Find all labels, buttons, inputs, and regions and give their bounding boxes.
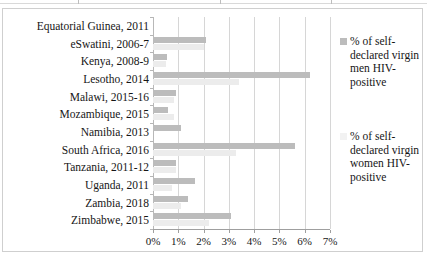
category-tick [150, 35, 153, 36]
bar-women [153, 220, 209, 226]
x-axis-tick [330, 230, 331, 233]
chart-frame: Equatorial Guinea, 2011eSwatini, 2006-7K… [2, 8, 423, 252]
category-tick [150, 105, 153, 106]
category-tick [150, 123, 153, 124]
bar-group [153, 19, 330, 37]
bar-men [153, 196, 188, 202]
bar-men [153, 107, 168, 113]
scan-artifact-tick [331, 0, 332, 4]
x-axis-tick [254, 230, 255, 233]
category-label: Mozambique, 2015 [9, 108, 149, 120]
bars-layer [153, 17, 330, 229]
category-label: Uganda, 2011 [9, 179, 149, 191]
bar-men [153, 72, 310, 78]
category-label: eSwatini, 2006-7 [9, 38, 149, 50]
category-label: Lesotho, 2014 [9, 73, 149, 85]
bar-women [153, 203, 181, 209]
bar-group [153, 178, 330, 196]
category-label: Malawi, 2015-16 [9, 91, 149, 103]
y-axis-category-labels: Equatorial Guinea, 2011eSwatini, 2006-7K… [9, 17, 149, 229]
category-label: Tanzania, 2011-12 [9, 161, 149, 173]
category-label: Kenya, 2008-9 [9, 55, 149, 67]
bar-women [153, 167, 176, 173]
bar-women [153, 185, 172, 191]
plot-area [153, 17, 330, 229]
x-axis-tick [153, 230, 154, 233]
bar-group [153, 143, 330, 161]
bar-women [153, 150, 236, 156]
x-axis-tick [178, 230, 179, 233]
x-axis-line [153, 229, 330, 230]
category-tick [150, 158, 153, 159]
legend-swatch-women-icon [340, 133, 347, 140]
bar-men [153, 160, 176, 166]
bar-group [153, 72, 330, 90]
legend-entry-men: % of self-declared virgin men HIV-positi… [340, 35, 424, 89]
bar-men [153, 178, 195, 184]
x-axis-tick [279, 230, 280, 233]
x-axis-tick [204, 230, 205, 233]
scan-artifact-rule [0, 3, 427, 4]
bar-men [153, 54, 167, 60]
bar-group [153, 107, 330, 125]
bar-group [153, 37, 330, 55]
category-tick [150, 141, 153, 142]
scan-artifact-tick [220, 0, 221, 4]
legend-swatch-men-icon [340, 38, 347, 45]
bar-group [153, 90, 330, 108]
bar-group [153, 160, 330, 178]
x-axis-tick-label: 7% [314, 235, 346, 248]
bar-men [153, 37, 206, 43]
gridline [330, 17, 331, 229]
bar-men [153, 125, 181, 131]
scan-artifact-tick [78, 0, 79, 4]
category-label: South Africa, 2016 [9, 144, 149, 156]
bar-women [153, 97, 174, 103]
category-label: Namibia, 2013 [9, 126, 149, 138]
bar-men [153, 143, 295, 149]
bar-men [153, 90, 176, 96]
bar-women [153, 44, 204, 50]
category-tick [150, 211, 153, 212]
bar-men [153, 213, 231, 219]
category-tick [150, 17, 153, 18]
bar-group [153, 125, 330, 143]
bar-women [153, 114, 174, 120]
category-tick [150, 194, 153, 195]
category-label: Zimbabwe, 2015 [9, 214, 149, 226]
category-label: Zambia, 2018 [9, 197, 149, 209]
x-axis-tick [229, 230, 230, 233]
category-tick [150, 52, 153, 53]
bar-group [153, 196, 330, 214]
legend-entry-women: % of self-declared virgin women HIV-posi… [340, 130, 424, 184]
bar-group [153, 54, 330, 72]
category-tick [150, 229, 153, 230]
category-tick [150, 176, 153, 177]
category-tick [150, 70, 153, 71]
category-tick [150, 88, 153, 89]
legend-label-women: % of self-declared virgin women HIV-posi… [350, 130, 424, 184]
bar-women [153, 79, 239, 85]
bar-women [153, 61, 166, 67]
x-axis-tick [305, 230, 306, 233]
category-label: Equatorial Guinea, 2011 [9, 20, 149, 32]
legend-label-men: % of self-declared virgin men HIV-positi… [350, 35, 424, 89]
